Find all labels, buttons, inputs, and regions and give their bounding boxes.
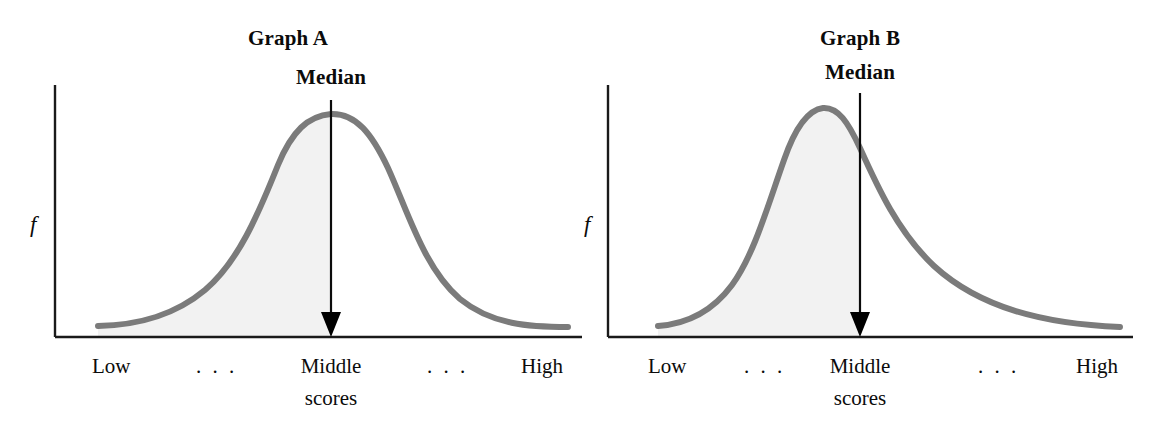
graph-a-tick-dots-left: . . . bbox=[196, 356, 237, 377]
graph-a-tick-middle: Middle bbox=[301, 356, 362, 377]
graph-b-tick-dots-right: . . . bbox=[978, 356, 1019, 377]
graph-b-shaded-area bbox=[658, 108, 860, 337]
graph-a-y-axis-label: f bbox=[30, 213, 36, 236]
graph-b-title: Graph B bbox=[820, 28, 900, 49]
graph-a-title: Graph A bbox=[248, 28, 328, 49]
graph-a-x-axis-sublabel: scores bbox=[305, 388, 357, 409]
figure-two-distribution-graphs: Graph A Median f Low . . . Middle . . . … bbox=[0, 0, 1163, 429]
graph-a-plot bbox=[0, 0, 582, 429]
graph-a-tick-dots-right: . . . bbox=[427, 356, 468, 377]
graph-b-x-axis-sublabel: scores bbox=[834, 388, 886, 409]
graph-panel-a: Graph A Median f Low . . . Middle . . . … bbox=[0, 0, 582, 429]
graph-panel-b: Graph B Median f Low . . . Middle . . . … bbox=[582, 0, 1163, 429]
graph-b-tick-dots-left: . . . bbox=[744, 356, 785, 377]
graph-a-distribution-curve bbox=[98, 114, 568, 327]
graph-a-median-label: Median bbox=[296, 67, 366, 88]
graph-b-distribution-curve bbox=[658, 108, 1120, 327]
graph-b-y-axis-label: f bbox=[584, 213, 590, 236]
graph-a-tick-low: Low bbox=[92, 356, 131, 377]
graph-b-tick-middle: Middle bbox=[830, 356, 891, 377]
graph-b-median-label: Median bbox=[825, 62, 895, 83]
graph-a-tick-high: High bbox=[521, 356, 563, 377]
graph-b-tick-low: Low bbox=[648, 356, 687, 377]
graph-a-shaded-area bbox=[98, 114, 331, 337]
graph-b-tick-high: High bbox=[1076, 356, 1118, 377]
